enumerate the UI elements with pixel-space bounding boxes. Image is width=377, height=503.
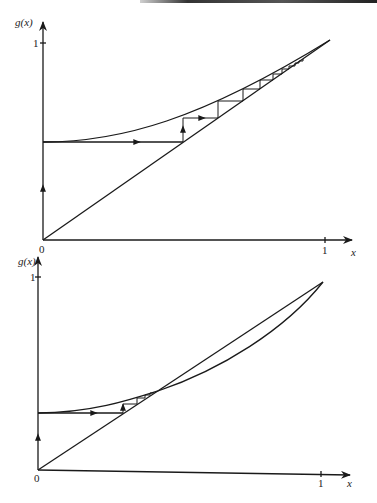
top-arrow-up-axis	[41, 186, 45, 191]
top-y-axis-label: g(x)	[15, 16, 33, 29]
top-labels: g(x) 1 0 1 x	[15, 16, 356, 258]
top-origin-label: 0	[39, 243, 45, 255]
bottom-y-tick-label: 1	[30, 271, 36, 283]
bottom-x-axis	[38, 470, 350, 475]
bottom-labels: g(x) 1 0 1 x	[18, 255, 352, 489]
top-gx-curve	[43, 40, 330, 142]
top-arrow-up-step	[181, 127, 185, 132]
bottom-arrow-up-step	[121, 405, 125, 410]
top-panel	[40, 22, 352, 243]
bottom-gx-curve	[38, 282, 323, 413]
bottom-origin-label: 0	[34, 472, 40, 484]
top-arrow-right-step	[199, 116, 204, 120]
bottom-diagonal-line	[38, 282, 323, 470]
cobweb-diagrams: g(x) 1 0 1 x g(x) 1 0 1 x	[0, 0, 377, 503]
top-arrow-right	[134, 140, 139, 144]
bottom-x-axis-label: x	[346, 477, 352, 489]
bottom-arrow-right	[91, 411, 96, 415]
top-y-tick-label: 1	[33, 37, 39, 49]
bottom-arrow-up-axis	[36, 435, 40, 440]
top-x-tick-label: 1	[322, 244, 328, 256]
top-x-axis-label: x	[350, 246, 356, 258]
bottom-x-tick-label: 1	[318, 477, 324, 489]
bottom-cobweb-steps	[123, 392, 153, 413]
bottom-y-axis-label: g(x)	[18, 255, 36, 268]
bottom-panel	[35, 257, 350, 477]
